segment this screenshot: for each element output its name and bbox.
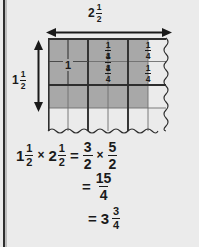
eq3-whole: 3 (101, 211, 109, 226)
eq3-fraction: 3 4 (112, 206, 120, 231)
torn-bottom-edge (48, 129, 158, 133)
eq2-fraction: 15 4 (95, 171, 113, 202)
eq1-a-denominator: 2 (25, 155, 33, 168)
unit-square-label-text: 1 (63, 59, 73, 71)
left-dimension-whole: 1 (12, 74, 19, 86)
top-dimension-fraction: 1 2 (96, 3, 103, 23)
eq3-denominator: 4 (112, 218, 120, 231)
eq1-a-numerator: 1 (25, 143, 33, 155)
top-dimension-whole: 2 (88, 7, 95, 19)
left-dimension-label: 1 1 2 (12, 70, 26, 90)
eq1-b-fraction: 1 2 (58, 143, 66, 168)
worksheet-page: 2 1 2 1 1 2 (0, 0, 199, 247)
eq1-b-whole: 2 (48, 148, 56, 163)
eq1-c-fraction: 3 2 (83, 140, 93, 171)
vertical-double-arrow-icon (33, 40, 44, 112)
eq1-c-numerator: 3 (83, 140, 93, 155)
eq1-d-numerator: 5 (108, 140, 118, 155)
eq1-equals-operator: = (70, 148, 79, 163)
eq1-b-numerator: 1 (58, 143, 66, 155)
eq3-numerator: 3 (112, 206, 120, 218)
eq1-mixed-a: 1 1 2 (16, 143, 33, 168)
eq1-d-denominator: 2 (108, 155, 118, 171)
eq1-a-fraction: 1 2 (25, 143, 33, 168)
left-dimension-fraction: 1 2 (20, 70, 27, 90)
area-model-grid: 1 1 4 (48, 38, 170, 132)
equation-line-1: 1 1 2 × 2 1 2 = 3 2 × 5 (0, 140, 199, 170)
eq3-equals-operator: = (88, 211, 97, 226)
eq1-a-whole: 1 (16, 148, 24, 163)
eq2-denominator: 4 (99, 186, 109, 202)
top-dimension-numerator: 1 (96, 3, 103, 13)
eq1-times-operator-1: × (37, 149, 44, 161)
top-dimension-denominator: 2 (96, 13, 103, 24)
eq3-mixed-result: 3 3 4 (101, 206, 120, 231)
equation-line-2: = 15 4 (0, 170, 199, 203)
eq1-b-denominator: 2 (58, 155, 66, 168)
eq1-d-fraction: 5 2 (108, 140, 118, 171)
left-dimension-denominator: 2 (20, 80, 27, 91)
eq2-equals-operator: = (82, 179, 91, 194)
unit-square-label: 1 (48, 58, 88, 72)
eq1-mixed-b: 2 1 2 (48, 143, 65, 168)
quarter-cell-1 (88, 39, 128, 62)
top-dimension-label: 2 1 2 (88, 3, 102, 23)
eq2-numerator: 15 (95, 171, 113, 186)
left-dimension-numerator: 1 (20, 70, 27, 80)
eq1-times-operator-2: × (97, 149, 104, 161)
horizontal-double-arrow-icon (46, 27, 172, 38)
eq1-c-denominator: 2 (83, 155, 93, 171)
equation-line-3: = 3 3 4 (0, 203, 199, 233)
equation-block: 1 1 2 × 2 1 2 = 3 2 × 5 (0, 140, 199, 233)
